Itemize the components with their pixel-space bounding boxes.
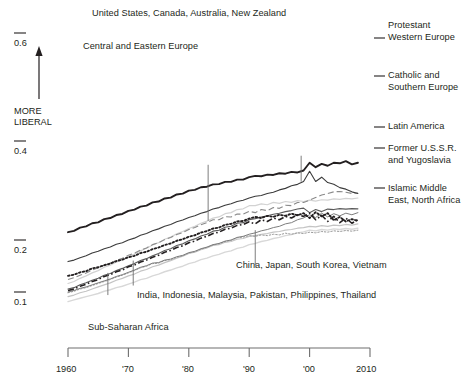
legend-label-catholic-southern-europe: Catholic and Southern Europe [388,70,472,93]
y-tick-label-0.6: 0.6 [14,38,27,48]
series-line [68,213,358,292]
legend-line1: Catholic and [388,70,440,80]
legend-line1: Former U.S.S.R. [388,143,457,153]
annotation-india-indonesia-malaysia: India, Indonesia, Malaysia, Pakistan, Ph… [137,290,376,302]
x-tick-label-1990: '90 [243,364,255,374]
x-tick-label-1970: '70 [122,364,134,374]
x-tick-label-1960: 1960 [56,364,76,374]
annotation-sub-saharan-africa: Sub-Saharan Africa [88,322,169,334]
legend-line1: Latin America [388,121,444,131]
legend-line2: Western Europe [388,32,455,42]
legend-line1: Protestant [388,20,430,30]
x-tick-label-2000: '00 [303,364,315,374]
annotation-us-canada-australia-nz: United States, Canada, Australia, New Ze… [92,8,286,20]
legend-line2: Southern Europe [388,82,458,92]
legend-label-former-ussr-yugoslavia: Former U.S.S.R. and Yugoslavia [388,143,472,166]
legend-line2: and Yugoslavia [388,155,451,165]
y-tick-label-0.4: 0.4 [14,146,27,156]
series-line [68,161,358,232]
more-liberal-note-line1: MORE [14,106,42,117]
legend-line1: Islamic Middle [388,183,447,193]
legend-label-latin-america: Latin America [388,121,472,133]
legend-label-protestant-western-europe: Protestant Western Europe [388,20,472,43]
y-tick-label-0.2: 0.2 [14,245,27,255]
chart-figure: 0.6 0.4 0.2 0.1 MORE LIBERAL 1960 '70 '8… [0,0,472,385]
legend-label-islamic-middle-east-north-africa: Islamic Middle East, North Africa [388,183,472,206]
y-tick-label-0.1: 0.1 [14,297,27,307]
x-tick-label-1980: '80 [182,364,194,374]
annotation-china-japan-korea-vietnam: China, Japan, South Korea, Vietnam [236,260,387,272]
legend-line2: East, North Africa [388,195,460,205]
more-liberal-note-line2: LIBERAL [14,117,52,128]
annotation-central-eastern-europe: Central and Eastern Europe [83,41,198,53]
x-tick-label-2010: 2010 [356,364,376,374]
more-liberal-arrow-head [35,46,42,56]
